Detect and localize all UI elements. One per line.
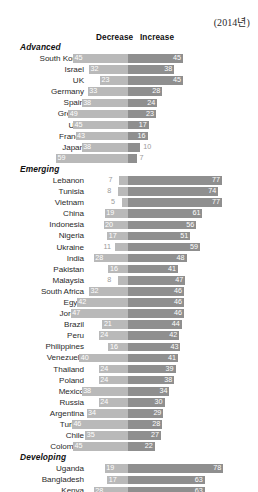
bar-value-decrease: 17 xyxy=(109,476,117,485)
table-row: Jordan4746 xyxy=(0,308,258,319)
row-bars: 3810 xyxy=(0,143,258,152)
diverging-bar-chart: AdvancedSouth Korea4545Israel3238UK2345G… xyxy=(0,42,258,492)
bar-value-increase: 34 xyxy=(128,387,167,396)
bar-value-decrease: 38 xyxy=(83,143,91,152)
table-row: Indonesia2056 xyxy=(0,219,258,230)
bar-value-decrease: 45 xyxy=(75,442,83,451)
row-bars: 2439 xyxy=(0,365,258,374)
row-bars: 3527 xyxy=(0,431,258,440)
bar-value-increase: 63 xyxy=(128,476,203,485)
bar-segment-decrease xyxy=(118,187,128,196)
bar-value-decrease: 24 xyxy=(100,398,108,407)
bar-value-increase: 63 xyxy=(128,487,203,492)
row-bars: 3246 xyxy=(0,287,258,296)
bar-value-increase: 78 xyxy=(128,464,221,473)
bar-value-decrease: 43 xyxy=(77,132,85,141)
bar-value-decrease: 33 xyxy=(89,87,97,96)
bar-segment-increase xyxy=(128,143,140,152)
bar-value-decrease: 24 xyxy=(100,331,108,340)
bar-value-increase: 16 xyxy=(128,132,146,141)
bar-value-decrease: 38 xyxy=(83,387,91,396)
row-bars: 3834 xyxy=(0,387,258,396)
bar-value-increase: 10 xyxy=(143,143,151,152)
table-row: Italy597 xyxy=(0,153,258,164)
bar-value-increase: 41 xyxy=(128,265,176,274)
year-note: (2014년) xyxy=(214,14,250,29)
bar-value-decrease: 46 xyxy=(73,420,81,429)
row-bars: 847 xyxy=(0,276,258,285)
bar-value-decrease: 45 xyxy=(75,54,83,63)
bar-value-increase: 38 xyxy=(128,376,172,385)
row-bars: 1763 xyxy=(0,476,258,485)
bar-value-decrease: 23 xyxy=(101,76,109,85)
table-row: Greece4923 xyxy=(0,108,258,119)
row-bars: 1159 xyxy=(0,243,258,252)
table-row: Poland2438 xyxy=(0,375,258,386)
row-bars: 2345 xyxy=(0,76,258,85)
row-bars: 4316 xyxy=(0,132,258,141)
bar-value-increase: 56 xyxy=(128,221,194,230)
bar-value-increase: 45 xyxy=(128,76,181,85)
bar-value-decrease: 17 xyxy=(109,232,117,241)
bar-value-increase: 61 xyxy=(128,209,200,218)
row-bars: 4746 xyxy=(0,309,258,318)
row-bars: 4923 xyxy=(0,110,258,119)
bar-value-decrease: 34 xyxy=(88,409,96,418)
bar-value-increase: 17 xyxy=(128,121,147,130)
bar-value-increase: 77 xyxy=(128,176,220,185)
bar-value-decrease: 7 xyxy=(108,176,112,185)
table-row: South Korea4545 xyxy=(0,53,258,64)
bar-value-decrease: 24 xyxy=(100,376,108,385)
row-bars: 1961 xyxy=(0,209,258,218)
table-row: Germany3328 xyxy=(0,86,258,97)
bar-value-increase: 43 xyxy=(128,343,178,352)
group-title-advanced: Advanced xyxy=(0,42,258,53)
row-bars: 577 xyxy=(0,198,258,207)
table-row: Japan3810 xyxy=(0,142,258,153)
row-bars: 4041 xyxy=(0,354,258,363)
bar-value-increase: 46 xyxy=(128,309,182,318)
bar-value-increase: 27 xyxy=(128,431,159,440)
row-bars: 3429 xyxy=(0,409,258,418)
bar-value-increase: 28 xyxy=(128,87,160,96)
bar-value-increase: 38 xyxy=(128,65,172,74)
bar-value-decrease: 19 xyxy=(106,464,114,473)
table-row: Kenya2863 xyxy=(0,485,258,492)
bar-value-decrease: 35 xyxy=(87,431,95,440)
bar-value-decrease: 42 xyxy=(78,298,86,307)
table-row: Pakistan1641 xyxy=(0,264,258,275)
bar-value-decrease: 49 xyxy=(70,110,78,119)
row-bars: 2848 xyxy=(0,254,258,263)
table-row: Russia2430 xyxy=(0,397,258,408)
group-title-developing: Developing xyxy=(0,452,258,463)
row-bars: 4545 xyxy=(0,54,258,63)
row-bars: 2863 xyxy=(0,487,258,492)
chart-page: (2014년) Decrease Increase AdvancedSouth … xyxy=(0,0,258,492)
bar-value-increase: 7 xyxy=(140,154,144,163)
table-row: Argentina3429 xyxy=(0,408,258,419)
row-bars: 4522 xyxy=(0,442,258,451)
bar-value-decrease: 32 xyxy=(90,65,98,74)
bar-value-decrease: 21 xyxy=(104,320,112,329)
row-bars: 2442 xyxy=(0,331,258,340)
row-bars: 597 xyxy=(0,154,258,163)
bar-value-decrease: 45 xyxy=(75,121,83,130)
table-row: Colombia4522 xyxy=(0,441,258,452)
table-row: Vietnam577 xyxy=(0,197,258,208)
table-row: Chile3527 xyxy=(0,430,258,441)
bar-value-decrease: 28 xyxy=(95,487,103,492)
bar-segment-decrease xyxy=(56,154,128,163)
bar-segment-increase xyxy=(128,154,137,163)
bar-value-increase: 24 xyxy=(128,99,155,108)
bar-value-increase: 74 xyxy=(128,187,216,196)
row-bars: 1978 xyxy=(0,464,258,473)
bar-value-decrease: 16 xyxy=(110,343,118,352)
bar-value-decrease: 19 xyxy=(106,209,114,218)
bar-segment-decrease xyxy=(115,243,128,252)
table-row: Philippines1643 xyxy=(0,341,258,352)
bar-value-decrease: 59 xyxy=(58,154,66,163)
bar-value-decrease: 38 xyxy=(83,99,91,108)
table-row: Turkey4628 xyxy=(0,419,258,430)
row-bars: 2144 xyxy=(0,320,258,329)
table-row: Lebanon777 xyxy=(0,175,258,186)
